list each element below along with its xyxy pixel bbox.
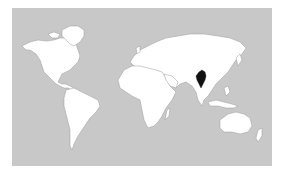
world-map-svg bbox=[12, 8, 272, 166]
world-map bbox=[12, 8, 272, 166]
